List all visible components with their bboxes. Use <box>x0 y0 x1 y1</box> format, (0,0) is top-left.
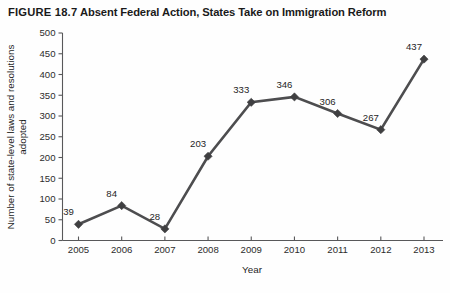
marker-2005 <box>74 220 82 228</box>
value-label-2013: 437 <box>406 41 422 52</box>
data-series-line <box>79 59 425 229</box>
x-tick-label-2013: 2013 <box>413 244 434 255</box>
y-tick-label-100: 100 <box>39 193 55 204</box>
y-tick-label-450: 450 <box>39 48 55 59</box>
y-tick-label-0: 0 <box>50 235 55 246</box>
x-axis-tick-labels: 200520062007200820092010201120122013 <box>68 244 435 255</box>
y-tick-label-150: 150 <box>39 173 55 184</box>
marker-2011 <box>334 109 342 117</box>
value-label-2008: 203 <box>190 138 206 149</box>
value-label-2005: 39 <box>63 206 74 217</box>
value-label-2006: 84 <box>106 188 117 199</box>
y-axis-title-line-2: adopted <box>17 119 28 154</box>
y-tick-label-200: 200 <box>39 152 55 163</box>
x-tick-label-2009: 2009 <box>241 244 262 255</box>
y-tick-label-300: 300 <box>39 110 55 121</box>
value-label-2009: 333 <box>233 84 249 95</box>
y-tick-label-500: 500 <box>39 27 55 38</box>
figure-container: FIGURE 18.7 Absent Federal Action, State… <box>0 0 450 293</box>
y-tick-label-50: 50 <box>45 214 56 225</box>
y-axis-title: Number of state-level laws and resolutio… <box>5 45 28 230</box>
x-axis-ticks <box>79 237 425 241</box>
x-tick-label-2012: 2012 <box>370 244 391 255</box>
y-axis-tick-labels: 050100150200250300350400450500 <box>39 27 55 246</box>
y-tick-label-350: 350 <box>39 90 55 101</box>
data-point-value-labels: 398428203333346306267437 <box>63 41 422 222</box>
x-axis-title: Year <box>242 264 263 275</box>
marker-2010 <box>290 93 298 101</box>
x-tick-label-2006: 2006 <box>111 244 132 255</box>
y-tick-label-400: 400 <box>39 69 55 80</box>
data-point-markers <box>74 55 428 233</box>
y-axis-title-line-1: Number of state-level laws and resolutio… <box>5 45 16 230</box>
x-tick-label-2005: 2005 <box>68 244 89 255</box>
line-chart: 050100150200250300350400450500 200520062… <box>0 0 450 293</box>
x-tick-label-2007: 2007 <box>154 244 175 255</box>
y-tick-label-250: 250 <box>39 131 55 142</box>
x-tick-label-2011: 2011 <box>327 244 348 255</box>
x-tick-label-2008: 2008 <box>197 244 218 255</box>
x-tick-label-2010: 2010 <box>284 244 305 255</box>
value-label-2007: 28 <box>150 211 161 222</box>
y-axis-ticks <box>59 33 63 241</box>
value-label-2010: 346 <box>276 79 292 90</box>
value-label-2011: 306 <box>320 96 336 107</box>
value-label-2012: 267 <box>363 112 379 123</box>
